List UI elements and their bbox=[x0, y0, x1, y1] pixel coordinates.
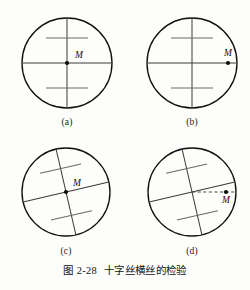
stadia-hair-d-1 bbox=[166, 164, 207, 173]
target-point-label-c: M bbox=[72, 178, 82, 188]
reticle-panel-d: M bbox=[139, 139, 245, 245]
reticle-panel-c: M bbox=[13, 139, 119, 245]
target-point-dot-d bbox=[224, 190, 228, 194]
panel-label-b: (b) bbox=[172, 117, 212, 127]
target-point-dot-b bbox=[226, 61, 230, 65]
panel-label-a: (a) bbox=[47, 117, 87, 127]
target-point-label-a: M bbox=[74, 50, 84, 60]
reticle-panel-a: M bbox=[22, 18, 112, 108]
figure-2-28: MMMM (a) (b) (c) (d) 图 2-28十字丝横丝的检验 bbox=[0, 0, 250, 290]
stadia-hair-c-2 bbox=[51, 211, 92, 220]
panel-label-c: (c) bbox=[46, 246, 86, 256]
crosshair-diagram-canvas: MMMM bbox=[0, 0, 250, 290]
reticle-panel-b: M bbox=[147, 18, 237, 108]
stadia-hair-d-2 bbox=[177, 211, 218, 220]
figure-caption-number: 图 2-28 bbox=[63, 265, 97, 276]
figure-caption: 图 2-28十字丝横丝的检验 bbox=[0, 262, 250, 277]
target-point-label-b: M bbox=[223, 48, 233, 58]
stadia-hair-c-1 bbox=[40, 164, 81, 173]
target-point-dot-a bbox=[65, 61, 69, 65]
target-point-dot-c bbox=[64, 190, 68, 194]
target-point-label-d: M bbox=[221, 195, 231, 205]
panel-label-d: (d) bbox=[172, 246, 212, 256]
figure-caption-text: 十字丝横丝的检验 bbox=[104, 265, 186, 276]
